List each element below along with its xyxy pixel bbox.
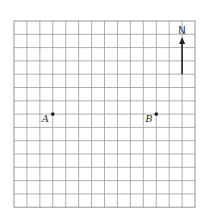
north-arrow: N [178,25,185,74]
point-a: A [41,113,55,125]
point-a-marker [51,113,54,116]
point-a-label: A [41,113,49,124]
point-b: B [144,113,158,125]
grid-diagram: A B N [0,0,204,219]
point-b-marker [155,113,158,116]
north-arrow-head-icon [179,37,185,44]
north-label: N [178,25,185,36]
point-b-label: B [144,113,152,124]
